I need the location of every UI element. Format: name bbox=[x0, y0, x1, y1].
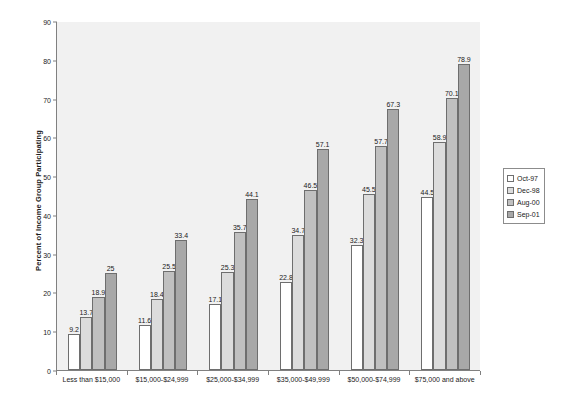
bar[interactable]: 25 bbox=[105, 273, 117, 370]
bar-group: 32.345.557.767.3 bbox=[340, 22, 411, 370]
bar[interactable]: 17.1 bbox=[209, 304, 221, 370]
bar[interactable]: 78.9 bbox=[458, 64, 470, 370]
x-axis-tick-mark bbox=[339, 371, 340, 375]
x-axis-tick-mark bbox=[268, 371, 269, 375]
bar-value-label: 44.1 bbox=[245, 191, 259, 198]
bar[interactable]: 33.4 bbox=[175, 240, 187, 370]
bar[interactable]: 44.5 bbox=[421, 197, 433, 370]
legend-swatch-icon bbox=[507, 175, 514, 182]
bar-value-label: 13.7 bbox=[79, 309, 93, 316]
x-axis-tick-label: $35,000-$49,999 bbox=[277, 376, 330, 383]
x-axis-tick-label: $25,000-$34,999 bbox=[206, 376, 259, 383]
legend-item[interactable]: Dec-98 bbox=[507, 184, 540, 196]
y-axis-title: Percent of Income Group Participating bbox=[34, 101, 43, 301]
bar-value-label: 78.9 bbox=[457, 56, 471, 63]
bar[interactable]: 44.1 bbox=[246, 199, 258, 370]
bar-value-label: 11.6 bbox=[138, 317, 151, 324]
legend-item-label: Aug-00 bbox=[517, 199, 540, 206]
legend-item[interactable]: Oct-97 bbox=[507, 172, 540, 184]
x-axis-labels: Less than $15,000$15,000-$24,999$25,000-… bbox=[56, 376, 480, 396]
bar-value-label: 17.1 bbox=[209, 296, 223, 303]
bar[interactable]: 22.8 bbox=[280, 282, 292, 370]
legend-item[interactable]: Aug-00 bbox=[507, 196, 540, 208]
bar-value-label: 33.4 bbox=[174, 232, 188, 239]
bar[interactable]: 46.5 bbox=[304, 190, 316, 370]
bar-value-label: 35.7 bbox=[233, 224, 247, 231]
bar[interactable]: 18.4 bbox=[151, 299, 163, 370]
bar-value-label: 70.1 bbox=[445, 90, 459, 97]
chart-legend: Oct-97Dec-98Aug-00Sep-01 bbox=[503, 168, 545, 224]
x-axis-tick-label: Less than $15,000 bbox=[63, 376, 121, 383]
bar-value-label: 25.5 bbox=[162, 263, 176, 270]
bar[interactable]: 9.2 bbox=[68, 334, 80, 370]
bar-group: 9.213.718.925 bbox=[57, 22, 128, 370]
x-axis-tick-mark bbox=[127, 371, 128, 375]
bar-value-label: 22.8 bbox=[279, 274, 293, 281]
x-axis-tick-label: $50,000-$74,999 bbox=[348, 376, 401, 383]
legend-item[interactable]: Sep-01 bbox=[507, 208, 540, 220]
bar-group: 22.834.746.557.1 bbox=[269, 22, 340, 370]
x-axis-tick-mark bbox=[480, 371, 481, 375]
bar[interactable]: 25.3 bbox=[221, 272, 233, 370]
bar-groups: 9.213.718.92511.618.425.533.417.125.335.… bbox=[57, 22, 480, 370]
legend-item-label: Oct-97 bbox=[517, 175, 538, 182]
bar-value-label: 67.3 bbox=[386, 101, 400, 108]
bar[interactable]: 57.7 bbox=[375, 146, 387, 370]
bar[interactable]: 32.3 bbox=[351, 245, 363, 370]
bar-value-label: 44.5 bbox=[421, 189, 435, 196]
bar-group: 44.558.970.178.9 bbox=[410, 22, 481, 370]
bar-value-label: 25 bbox=[107, 265, 115, 272]
legend-swatch-icon bbox=[507, 211, 514, 218]
legend-swatch-icon bbox=[507, 199, 514, 206]
legend-item-label: Dec-98 bbox=[517, 187, 540, 194]
x-axis-tick-mark bbox=[56, 371, 57, 375]
bar[interactable]: 35.7 bbox=[234, 232, 246, 370]
bar-value-label: 18.4 bbox=[150, 291, 164, 298]
bar[interactable]: 11.6 bbox=[139, 325, 151, 370]
bar[interactable]: 13.7 bbox=[80, 317, 92, 370]
bar-value-label: 32.3 bbox=[350, 237, 364, 244]
bar[interactable]: 67.3 bbox=[387, 109, 399, 370]
x-axis-tick-label: $15,000-$24,999 bbox=[136, 376, 189, 383]
bar[interactable]: 70.1 bbox=[446, 98, 458, 370]
bar-group: 11.618.425.533.4 bbox=[128, 22, 199, 370]
bar[interactable]: 25.5 bbox=[163, 271, 175, 370]
bar-value-label: 34.7 bbox=[291, 227, 305, 234]
bar-value-label: 18.9 bbox=[92, 289, 106, 296]
x-axis-tick-mark bbox=[409, 371, 410, 375]
bar-value-label: 58.9 bbox=[433, 134, 447, 141]
bar-value-label: 9.2 bbox=[69, 326, 79, 333]
bar-value-label: 57.7 bbox=[374, 138, 388, 145]
bar-value-label: 46.5 bbox=[304, 182, 318, 189]
x-axis-tick-mark bbox=[197, 371, 198, 375]
bar[interactable]: 58.9 bbox=[433, 142, 445, 370]
bar-group: 17.125.335.744.1 bbox=[198, 22, 269, 370]
bar[interactable]: 57.1 bbox=[317, 149, 329, 370]
legend-item-label: Sep-01 bbox=[517, 211, 540, 218]
x-axis-tick-label: $75,000 and above bbox=[415, 376, 475, 383]
bar-value-label: 57.1 bbox=[316, 141, 330, 148]
plot-area: 0102030405060708090 9.213.718.92511.618.… bbox=[56, 22, 480, 371]
bar[interactable]: 34.7 bbox=[292, 235, 304, 370]
legend-swatch-icon bbox=[507, 187, 514, 194]
bar[interactable]: 45.5 bbox=[363, 194, 375, 370]
bar-value-label: 45.5 bbox=[362, 186, 376, 193]
bar-chart: Percent of Income Group Participating 01… bbox=[0, 0, 569, 412]
bar[interactable]: 18.9 bbox=[92, 297, 104, 370]
bar-value-label: 25.3 bbox=[221, 264, 235, 271]
